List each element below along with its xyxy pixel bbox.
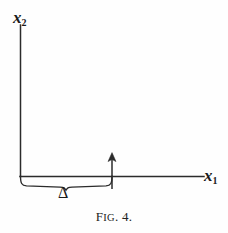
x1-axis-label-base: x (204, 166, 213, 185)
delta-label: Δ (58, 185, 68, 201)
x2-axis-label-base: x (13, 8, 22, 27)
figure-caption-smallcaps: IG (103, 212, 115, 223)
x1-axis-label: x1 (204, 167, 218, 184)
figure-container: x2 x1 Δ FIG. 4. (0, 0, 228, 233)
figure-caption: FIG. 4. (0, 209, 228, 225)
x2-axis-label-subscript: 2 (22, 17, 27, 28)
x1-axis-label-subscript: 1 (213, 175, 218, 186)
figure-drawing-canvas (0, 0, 228, 233)
figure-caption-suffix: . 4. (115, 209, 132, 224)
x2-axis-label: x2 (13, 9, 27, 26)
